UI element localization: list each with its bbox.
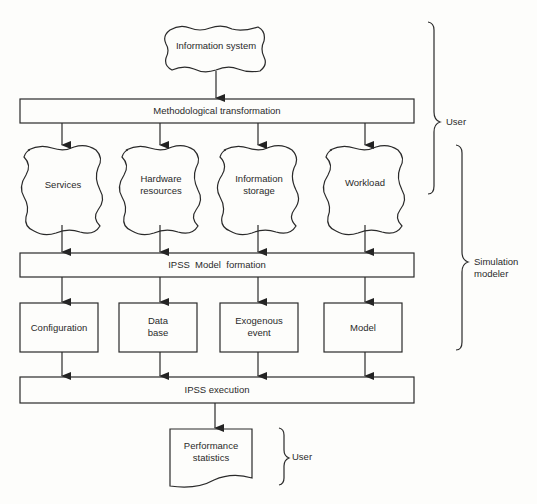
diagram-shapes xyxy=(0,0,537,504)
performance-label-line1: Performance xyxy=(170,440,252,452)
exogenous-label-line2: event xyxy=(220,327,298,339)
hardware-resources-label: Hardware resources xyxy=(120,173,202,197)
methodological-transformation-label: Methodological transformation xyxy=(20,105,414,117)
model-label: Model xyxy=(324,322,402,334)
top-user-label: User xyxy=(446,116,466,128)
storage-label-line1: Information xyxy=(218,173,300,185)
workload-label-line1: Workload xyxy=(324,177,406,189)
hardware-label-line1: Hardware xyxy=(120,173,202,185)
exogenous-event-label: Exogenous event xyxy=(220,315,298,339)
data-base-label: Data base xyxy=(119,315,197,339)
information-system-label: Information system xyxy=(170,40,262,52)
data-base-label-line2: base xyxy=(119,327,197,339)
exogenous-label-line1: Exogenous xyxy=(220,315,298,327)
ipss-execution-label: IPSS execution xyxy=(20,384,414,396)
ipss-model-formation-label: IPSS Model formation xyxy=(20,259,414,271)
configuration-label-line1: Configuration xyxy=(20,322,98,334)
diagram-canvas: Information system Methodological transf… xyxy=(0,0,537,504)
workload-label: Workload xyxy=(324,177,406,189)
modeler-label-line2: modeler xyxy=(474,268,518,280)
configuration-label: Configuration xyxy=(20,322,98,334)
storage-label-line2: storage xyxy=(218,185,300,197)
performance-label-line2: statistics xyxy=(170,452,252,464)
bottom-user-brace xyxy=(279,428,289,485)
simulation-modeler-brace xyxy=(456,145,468,350)
top-user-brace xyxy=(428,22,440,194)
bottom-user-label: User xyxy=(292,451,312,463)
simulation-modeler-label: Simulation modeler xyxy=(474,256,518,280)
hardware-label-line2: resources xyxy=(120,185,202,197)
performance-statistics-label: Performance statistics xyxy=(170,440,252,464)
workload-cloud xyxy=(323,146,404,235)
model-label-line1: Model xyxy=(324,322,402,334)
data-base-label-line1: Data xyxy=(119,315,197,327)
modeler-label-line1: Simulation xyxy=(474,256,518,268)
information-storage-label: Information storage xyxy=(218,173,300,197)
services-label-line1: Services xyxy=(22,179,104,191)
services-label: Services xyxy=(22,179,104,191)
